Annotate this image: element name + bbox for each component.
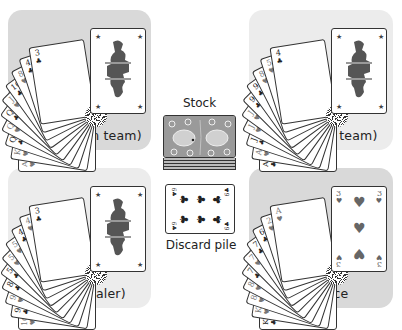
- heart-icon: ♥: [376, 198, 382, 205]
- club-icon: ♣: [275, 57, 284, 66]
- discard-pile-card[interactable]: 6♣ 6♣ 6♣ 6♣ ♣ ♣ ♣ ♣ ♣ ♣: [165, 184, 235, 234]
- club-icon: ♣: [195, 195, 206, 205]
- star-icon: ★: [336, 33, 342, 41]
- stock-label: Stock: [163, 96, 236, 110]
- card-index: 4♣: [274, 49, 284, 66]
- jack-card[interactable]: ★★★★: [90, 186, 146, 272]
- player-panel-maria: A♥K♥Q♣Q♥Q♣J♥10♣8♥4♣3♣★★★★ Maria (green t…: [8, 10, 151, 150]
- corner-index: 6♣: [171, 221, 177, 230]
- jack-card[interactable]: ★★★★: [331, 28, 387, 114]
- star-icon: ★: [378, 103, 384, 111]
- heart-icon: ♥: [336, 198, 342, 205]
- jack-card[interactable]: ★★★★: [90, 28, 146, 114]
- card-back-pattern: [163, 115, 236, 158]
- jack-figure-icon: [103, 38, 133, 104]
- star-icon: ★: [95, 191, 101, 199]
- star-icon: ★: [137, 33, 143, 41]
- club-icon: ♣: [212, 215, 223, 225]
- star-icon: ★: [378, 33, 384, 41]
- club-icon: ♣: [195, 215, 206, 225]
- heart-icon: ♥: [353, 195, 366, 209]
- star-icon: ★: [95, 33, 101, 41]
- card-index: 3♣: [33, 207, 43, 224]
- card-index: 3: [336, 260, 341, 268]
- club-icon: ♣: [34, 215, 43, 224]
- star-icon: ★: [137, 103, 143, 111]
- heart-icon: ♥: [336, 253, 342, 260]
- star-icon: ★: [336, 103, 342, 111]
- club-icon: ♣: [34, 57, 43, 66]
- star-icon: ★: [137, 191, 143, 199]
- heart-icon: ♥: [353, 221, 366, 235]
- star-icon: ★: [95, 103, 101, 111]
- star-icon: ★: [95, 261, 101, 269]
- player-panel-florence: K♣K♥8♥8♥7♣7♥7♣6♣2♥A♥3♥3♥♥♥♥♥3♥3 Florence: [249, 168, 393, 308]
- discard-pile-label: Discard pile: [153, 238, 249, 252]
- jack-figure-icon: [103, 196, 133, 262]
- player-panel-ginny: 10♥9♣9♥8♣5♣5♥5♥4♣4♥3♣★★★★ Ginny (dealer): [8, 168, 151, 308]
- club-icon: ♣: [178, 195, 189, 205]
- player-panel-peter: A♣A♥J♣J♥J♥9♣9♣8♥5♥4♣★★★★ Peter (blue tea…: [249, 10, 393, 150]
- stock-pile[interactable]: [163, 115, 236, 171]
- heart-icon: ♥: [353, 247, 366, 261]
- card-index: 3♣: [33, 49, 43, 66]
- star-icon: ★: [137, 261, 143, 269]
- club-icon: ♣: [178, 215, 189, 225]
- heart-icon: ♥: [275, 215, 284, 224]
- card-index: A♥: [274, 207, 284, 224]
- stock-edge: [163, 167, 236, 170]
- corner-index: 6♣: [171, 187, 177, 196]
- club-icon: ♣: [212, 195, 223, 205]
- card-index: 3: [377, 260, 382, 268]
- jack-figure-icon: [344, 38, 374, 104]
- floral-pattern-icon: [164, 116, 236, 158]
- three-of-hearts-card[interactable]: 3♥3♥♥♥♥♥3♥3: [331, 186, 387, 272]
- heart-icon: ♥: [376, 253, 382, 260]
